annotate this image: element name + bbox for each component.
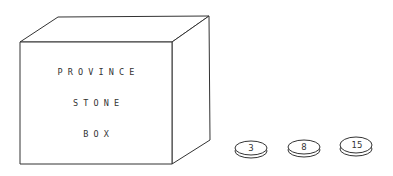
- stone-label: 3: [248, 143, 253, 153]
- stone-3: 3: [235, 141, 267, 158]
- stone-8: 8: [288, 140, 320, 157]
- diagram-canvas: P R O V I N C E S T O N E B O X 3 8 15: [0, 0, 393, 176]
- box-label-line-3: B O X: [83, 129, 109, 139]
- box-label-line-1: P R O V I N C E: [58, 67, 135, 77]
- box-side-face: [172, 16, 210, 164]
- stone-15: 15: [340, 137, 372, 156]
- stone-label: 15: [352, 140, 363, 150]
- box-label-line-2: S T O N E: [73, 98, 119, 108]
- stone-label: 8: [301, 142, 306, 152]
- stone-box: P R O V I N C E S T O N E B O X: [20, 16, 210, 164]
